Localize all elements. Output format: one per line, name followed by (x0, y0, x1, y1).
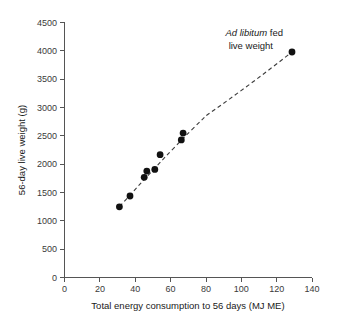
data-point (143, 168, 150, 175)
data-point (127, 193, 134, 200)
y-tick-label-0: 0 (52, 273, 57, 283)
x-tick-label-40: 40 (130, 284, 140, 294)
x-axis-ticks (65, 278, 313, 283)
y-axis-ticks (60, 23, 65, 278)
y-axis-tick-labels: 4500 4000 3500 3000 2500 2000 1500 1000 … (37, 18, 57, 283)
y-tick-label-4000: 4000 (37, 46, 57, 56)
x-tick-label-0: 0 (62, 284, 67, 294)
y-tick-label-500: 500 (42, 244, 57, 254)
annotation-line-1-rest: fed (267, 27, 283, 38)
x-tick-label-120: 120 (269, 284, 284, 294)
x-tick-label-20: 20 (95, 284, 105, 294)
y-tick-label-3500: 3500 (37, 74, 57, 84)
y-tick-label-2000: 2000 (37, 159, 57, 169)
x-axis-title: Total energy consumption to 56 days (MJ … (91, 300, 284, 311)
data-point (180, 130, 187, 137)
data-point (141, 174, 148, 181)
y-tick-label-1500: 1500 (37, 188, 57, 198)
data-point (157, 151, 164, 158)
y-tick-label-4500: 4500 (37, 18, 57, 28)
y-tick-label-3000: 3000 (37, 103, 57, 113)
scatter-plot-svg: 4500 4000 3500 3000 2500 2000 1500 1000 … (0, 0, 350, 320)
x-tick-label-60: 60 (166, 284, 176, 294)
data-point (151, 166, 158, 173)
x-axis-tick-labels: 0 20 40 60 80 100 120 140 (62, 284, 320, 294)
x-tick-label-100: 100 (234, 284, 249, 294)
x-tick-label-140: 140 (304, 284, 319, 294)
data-point (289, 49, 296, 56)
y-tick-label-1000: 1000 (37, 216, 57, 226)
annotation-italic-term: Ad libitum (224, 27, 267, 38)
y-tick-label-2500: 2500 (37, 131, 57, 141)
annotation-line-1: Ad libitum fed (224, 27, 283, 38)
chart-figure: 4500 4000 3500 3000 2500 2000 1500 1000 … (0, 0, 350, 320)
x-tick-label-80: 80 (201, 284, 211, 294)
data-point (116, 203, 123, 210)
y-axis-title: 56-day live weight (g) (16, 105, 27, 195)
annotation-line-2: live weight (229, 40, 274, 51)
data-point (178, 137, 185, 144)
ad-libitum-annotation: Ad libitum fed live weight (224, 27, 283, 51)
data-point-group (116, 49, 295, 211)
fitted-trend-line (119, 52, 292, 207)
